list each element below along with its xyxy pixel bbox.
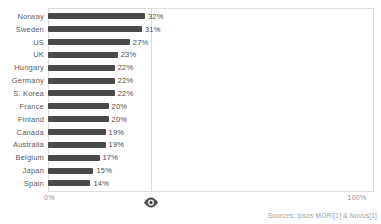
value-label: 22% — [118, 76, 134, 85]
category-label: Belgium — [0, 153, 48, 162]
value-label: 14% — [93, 179, 109, 188]
chart-region: Norway32%Sweden31%US27%UK23%Hungary22%Ge… — [0, 8, 375, 192]
bar — [48, 116, 109, 122]
category-label: UK — [0, 50, 48, 59]
bar — [48, 78, 115, 84]
value-label: 20% — [112, 102, 128, 111]
bar — [48, 142, 106, 148]
bar-row: Sweden31% — [0, 26, 375, 33]
category-label: Canada — [0, 128, 48, 137]
value-label: 17% — [103, 153, 119, 162]
source-note: Sources: Ipsos MORI[1] & Novus[1] — [268, 212, 377, 219]
eye-icon — [143, 196, 159, 209]
value-label: 22% — [118, 89, 134, 98]
category-label: Finland — [0, 115, 48, 124]
value-label: 19% — [109, 140, 125, 149]
category-label: France — [0, 102, 48, 111]
bar-row: Australia19% — [0, 141, 375, 148]
bar-row: US27% — [0, 39, 375, 46]
value-label: 19% — [109, 128, 125, 137]
bar-row: Japan15% — [0, 167, 375, 174]
bar-row: UK23% — [0, 51, 375, 58]
bar-row: Norway32% — [0, 13, 375, 20]
category-label: Australia — [0, 140, 48, 149]
bar-row: Finland20% — [0, 116, 375, 123]
category-label: S. Korea — [0, 89, 48, 98]
category-label: Sweden — [0, 25, 48, 34]
bar — [48, 180, 90, 186]
bar-row: Canada19% — [0, 129, 375, 136]
bar — [48, 168, 93, 174]
bar-row: Hungary22% — [0, 64, 375, 71]
value-label: 27% — [133, 38, 149, 47]
category-label: Japan — [0, 166, 48, 175]
bar-rows: Norway32%Sweden31%US27%UK23%Hungary22%Ge… — [0, 8, 375, 192]
bar — [48, 65, 115, 71]
bar — [48, 155, 100, 161]
category-label: Germany — [0, 76, 48, 85]
category-label: Hungary — [0, 63, 48, 72]
value-label: 31% — [145, 25, 161, 34]
bar — [48, 13, 145, 19]
bar-row: France20% — [0, 103, 375, 110]
bar-row: Germany22% — [0, 77, 375, 84]
bar-chart-page: { "chart_data": { "type": "bar", "orient… — [0, 0, 381, 224]
category-label: Norway — [0, 12, 48, 21]
bar — [48, 103, 109, 109]
x-axis-min-label: 0% — [44, 194, 55, 201]
value-label: 15% — [96, 166, 112, 175]
bar — [48, 39, 130, 45]
bar-row: Belgium17% — [0, 154, 375, 161]
value-label: 32% — [148, 12, 164, 21]
x-axis-max-label: 100% — [338, 194, 376, 201]
bar-row: Spain14% — [0, 180, 375, 187]
bar-row: S. Korea22% — [0, 90, 375, 97]
category-label: US — [0, 38, 48, 47]
value-label: 23% — [121, 50, 137, 59]
bar — [48, 90, 115, 96]
value-label: 20% — [112, 115, 128, 124]
bar — [48, 129, 106, 135]
category-label: Spain — [0, 179, 48, 188]
bar — [48, 26, 142, 32]
value-label: 22% — [118, 63, 134, 72]
bar — [48, 52, 118, 58]
